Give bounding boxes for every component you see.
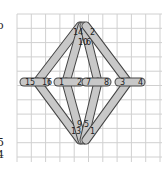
- bar-label: 9: [77, 120, 82, 129]
- bar-label: 1: [59, 78, 64, 87]
- bar-label: 15: [25, 78, 35, 87]
- bar-label: 1: [90, 127, 95, 136]
- edge-glyph: o: [0, 20, 4, 31]
- bar-diagram: 151612783414106213951: [0, 0, 166, 173]
- bar-label: 7: [86, 78, 91, 87]
- bar-label: 14: [73, 28, 83, 37]
- bar-label: 16: [42, 78, 52, 87]
- bar-label: 2: [77, 78, 82, 87]
- bar-label: 4: [138, 78, 143, 87]
- bar-label: 5: [84, 120, 89, 129]
- bar-label: 6: [86, 38, 91, 47]
- bar-label: 2: [90, 28, 95, 37]
- edge-glyph: 4: [0, 149, 4, 160]
- edge-glyph: 5: [0, 137, 4, 148]
- bar-label: 8: [104, 78, 109, 87]
- bar-label: 3: [120, 78, 125, 87]
